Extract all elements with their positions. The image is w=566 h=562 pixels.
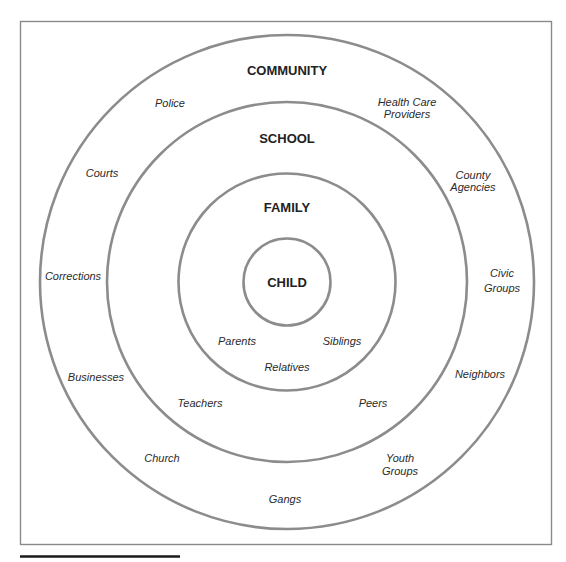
- item-youth-line1: Youth: [386, 452, 414, 464]
- item-youth-line2: Groups: [382, 465, 419, 477]
- item-siblings: Siblings: [323, 335, 362, 347]
- item-police: Police: [155, 97, 185, 109]
- item-county-line1: County: [456, 169, 492, 181]
- item-businesses: Businesses: [68, 371, 125, 383]
- item-county-line2: Agencies: [449, 181, 496, 193]
- label-community: COMMUNITY: [247, 63, 327, 78]
- label-school: SCHOOL: [259, 131, 315, 146]
- diagram-stage: COMMUNITY SCHOOL FAMILY CHILD Parents Si…: [0, 0, 566, 562]
- label-child: CHILD: [267, 275, 307, 290]
- item-church: Church: [144, 452, 179, 464]
- item-parents: Parents: [218, 335, 256, 347]
- item-corrections: Corrections: [45, 270, 102, 282]
- concentric-diagram: COMMUNITY SCHOOL FAMILY CHILD Parents Si…: [0, 0, 566, 562]
- item-teachers: Teachers: [178, 397, 223, 409]
- item-neighbors: Neighbors: [455, 368, 506, 380]
- item-courts: Courts: [86, 167, 119, 179]
- item-gangs: Gangs: [269, 493, 302, 505]
- item-civic-line1: Civic: [490, 267, 514, 279]
- item-relatives: Relatives: [264, 361, 310, 373]
- label-family: FAMILY: [264, 200, 311, 215]
- item-civic-line2: Groups: [484, 282, 521, 294]
- item-health-care-line2: Providers: [384, 108, 431, 120]
- item-peers: Peers: [359, 397, 388, 409]
- item-health-care-line1: Health Care: [378, 96, 437, 108]
